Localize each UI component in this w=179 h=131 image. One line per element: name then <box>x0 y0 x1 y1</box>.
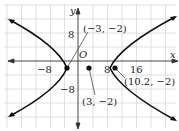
x-tick-neg8: −8 <box>37 64 52 75</box>
y-axis-label: y <box>69 5 76 16</box>
y-axis-arrow-down-icon <box>76 123 80 129</box>
center-point <box>86 65 91 70</box>
x-axis-label: x <box>170 49 176 60</box>
focus-point <box>112 65 117 70</box>
y-tick-neg8: −8 <box>60 84 75 95</box>
vertex-label: (−3, −2) <box>83 23 127 34</box>
x-tick-16: 16 <box>130 64 143 75</box>
focus-label: (10.2, −2) <box>124 76 175 87</box>
leader-lines <box>67 32 125 95</box>
x-axis-arrow-left-icon <box>8 59 14 63</box>
origin-label: O <box>79 49 87 60</box>
y-tick-8: 8 <box>68 29 74 40</box>
vertex-point <box>64 65 69 70</box>
y-axis-arrow-up-icon <box>76 8 80 14</box>
x-tick-8: 8 <box>104 64 110 75</box>
hyperbola-diagram: y x O 8 −8 −8 8 16 (−3, −2) (3, −2) (10.… <box>0 0 179 131</box>
center-label: (3, −2) <box>82 96 117 107</box>
